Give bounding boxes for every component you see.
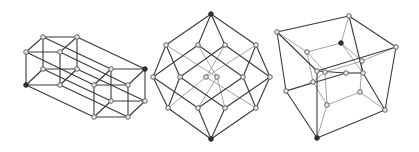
vertex-node <box>254 43 259 48</box>
vertex-node <box>254 106 259 111</box>
edge <box>317 110 385 138</box>
vertex-node <box>164 43 169 48</box>
vertex-node <box>323 70 328 75</box>
edge <box>77 37 145 69</box>
edge <box>198 45 243 77</box>
edge <box>26 37 43 52</box>
vertex-node <box>41 67 46 72</box>
edge <box>94 69 111 85</box>
edge <box>94 101 111 117</box>
vertex-node <box>109 67 114 72</box>
vertex-node <box>58 83 63 88</box>
vertex-node <box>311 80 316 85</box>
edge <box>206 45 225 77</box>
vertex-node <box>92 83 97 88</box>
edge <box>277 16 349 32</box>
tesseract-petrie-figure <box>140 0 280 152</box>
edge <box>26 85 94 117</box>
edge <box>360 92 385 110</box>
vertex-node <box>315 69 320 74</box>
edge <box>327 92 360 105</box>
vertex-node <box>223 106 228 111</box>
edge <box>243 77 256 108</box>
edge <box>243 45 256 77</box>
edge <box>26 69 43 85</box>
vertex-node <box>361 71 366 76</box>
edge <box>341 16 349 43</box>
vertex-node <box>325 103 330 108</box>
vertex-node <box>360 59 365 64</box>
edge <box>198 77 243 108</box>
vertex-node <box>75 35 80 40</box>
edge <box>307 43 341 52</box>
vertex-node <box>344 71 349 76</box>
vertex-node <box>24 50 29 55</box>
vertex-node <box>126 83 131 88</box>
vertex-node <box>92 115 97 120</box>
vertex-node <box>24 83 29 88</box>
vertex-node <box>394 45 399 50</box>
tesseract-perspective-figure <box>265 0 419 152</box>
vertex-node <box>126 115 131 120</box>
vertex-node <box>347 14 352 19</box>
edge <box>385 47 396 110</box>
edge <box>277 32 307 52</box>
edge <box>363 73 385 110</box>
edge <box>153 77 198 108</box>
vertex-node <box>209 137 214 142</box>
edge <box>307 52 313 82</box>
edge <box>317 71 346 73</box>
vertex-node <box>275 30 280 35</box>
edge <box>313 82 327 105</box>
vertex-node <box>196 43 201 48</box>
edge <box>277 32 317 71</box>
vertex-node <box>223 43 228 48</box>
tesseract-prism-figure <box>0 0 150 152</box>
edge <box>286 91 317 138</box>
vertex-node <box>178 75 183 80</box>
vertex-node <box>41 35 46 40</box>
prism-svg <box>0 0 150 152</box>
vertex-node <box>215 75 220 80</box>
edge <box>60 37 77 52</box>
vertex-node <box>241 75 246 80</box>
edge <box>317 105 327 138</box>
vertex-node <box>209 12 214 17</box>
vertex-node <box>383 108 388 113</box>
vertex-node <box>75 67 80 72</box>
vertex-node <box>315 136 320 141</box>
edge <box>277 32 286 91</box>
vertex-node <box>305 50 310 55</box>
perspective-svg <box>265 0 419 152</box>
vertex-node <box>151 75 156 80</box>
edge <box>60 69 77 85</box>
vertex-node <box>358 90 363 95</box>
vertex-node <box>109 99 114 104</box>
vertex-node <box>58 50 63 55</box>
vertex-node <box>284 89 289 94</box>
edge <box>325 72 327 105</box>
vertex-node <box>339 41 344 46</box>
vertex-node <box>204 75 209 80</box>
edge <box>286 73 346 91</box>
vertex-node <box>166 106 171 111</box>
vertex-node <box>196 106 201 111</box>
petrie-svg <box>140 0 280 152</box>
edge <box>349 16 396 47</box>
edge <box>180 45 225 77</box>
edge <box>317 47 396 71</box>
